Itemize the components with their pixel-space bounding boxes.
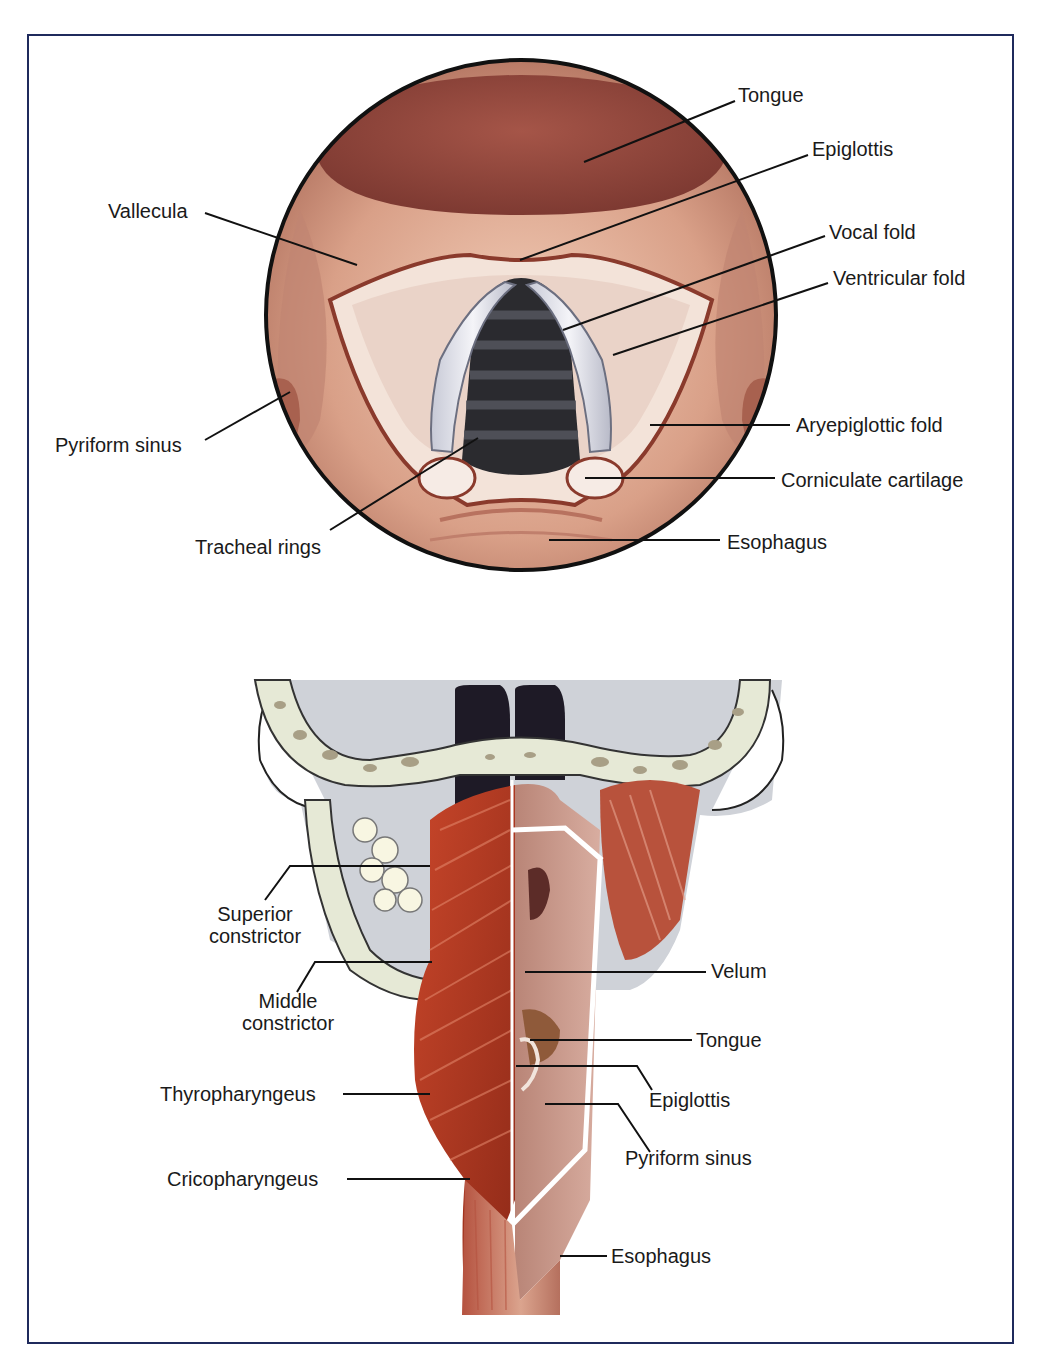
label-tracheal-rings: Tracheal rings [195,536,321,558]
label-pyriform-sinus-bottom: Pyriform sinus [625,1147,752,1169]
label-pyriform-sinus-top: Pyriform sinus [55,434,182,456]
label-middle-constrictor: Middle constrictor [228,990,348,1034]
label-superior-constrictor: Superior constrictor [195,903,315,947]
label-cricopharyngeus: Cricopharyngeus [167,1168,318,1190]
label-superior-constrictor-line2: constrictor [195,925,315,947]
label-esophagus-top: Esophagus [727,531,827,553]
label-epiglottis-bottom: Epiglottis [649,1089,730,1111]
label-superior-constrictor-line1: Superior [195,903,315,925]
label-epiglottis-top: Epiglottis [812,138,893,160]
larynx-view [266,60,776,570]
label-aryepiglottic-fold: Aryepiglottic fold [796,414,943,436]
label-ventricular-fold: Ventricular fold [833,267,965,289]
label-middle-constrictor-line1: Middle [228,990,348,1012]
label-velum: Velum [711,960,767,982]
label-esophagus-bottom: Esophagus [611,1245,711,1267]
label-thyropharyngeus: Thyropharyngeus [160,1083,316,1105]
label-tongue-top: Tongue [738,84,804,106]
label-vallecula: Vallecula [108,200,188,222]
label-tongue-bottom: Tongue [696,1029,762,1051]
label-corniculate-cartilage: Corniculate cartilage [781,469,963,491]
label-vocal-fold: Vocal fold [829,221,916,243]
label-middle-constrictor-line2: constrictor [228,1012,348,1034]
